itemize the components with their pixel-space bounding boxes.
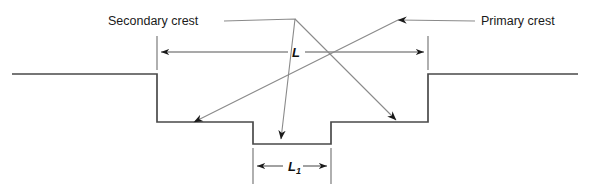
terrain-profile bbox=[12, 74, 578, 144]
leader-secondary-crest-down-left bbox=[194, 20, 398, 122]
leader-secondary-crest bbox=[224, 19, 295, 139]
leader-primary-crest-path bbox=[398, 20, 475, 21]
leader-primary-crest-diagonal-path bbox=[295, 19, 396, 120]
leader-secondary-crest-path bbox=[224, 19, 295, 139]
dimension-L1-label: L bbox=[288, 159, 296, 174]
dimension-L1: L 1 bbox=[253, 148, 331, 184]
primary-crest-label: Primary crest bbox=[481, 14, 555, 28]
leader-secondary-crest-down-left-path bbox=[194, 20, 398, 122]
terrain-profile-path bbox=[12, 74, 578, 144]
crest-profile-figure: L L 1 Secondary crest Primary crest bbox=[0, 0, 595, 193]
figure-canvas: L L 1 Secondary crest Primary crest bbox=[0, 0, 595, 193]
secondary-crest-label: Secondary crest bbox=[108, 14, 199, 28]
dimension-L-label: L bbox=[292, 45, 300, 60]
leader-primary-crest bbox=[295, 19, 475, 120]
dimension-L1-subscript: 1 bbox=[296, 166, 301, 176]
